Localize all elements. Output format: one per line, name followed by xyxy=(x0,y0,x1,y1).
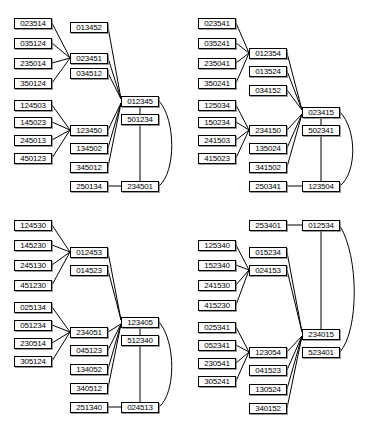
node-451230[interactable]: 451230 xyxy=(14,280,52,291)
node-523401[interactable]: 523401 xyxy=(302,347,340,358)
node-512340[interactable]: 512340 xyxy=(121,335,159,346)
node-450123[interactable]: 450123 xyxy=(14,153,52,164)
node-124503[interactable]: 124503 xyxy=(14,100,52,111)
node-125340[interactable]: 125340 xyxy=(198,240,236,251)
node-150234[interactable]: 150234 xyxy=(198,117,236,128)
node-135024[interactable]: 135024 xyxy=(249,143,287,154)
node-415230[interactable]: 415230 xyxy=(198,300,236,311)
node-123405[interactable]: 123405 xyxy=(121,317,159,328)
node-012354[interactable]: 012354 xyxy=(249,48,287,59)
panel-top-right: 023541 035241 235041 350241 125034 15023… xyxy=(184,0,367,211)
node-012534[interactable]: 012534 xyxy=(302,220,340,231)
node-234015[interactable]: 234015 xyxy=(302,329,340,340)
node-023451[interactable]: 023451 xyxy=(70,53,108,64)
node-023541[interactable]: 023541 xyxy=(198,18,236,29)
node-013452[interactable]: 013452 xyxy=(70,22,108,33)
node-241503[interactable]: 241503 xyxy=(198,135,236,146)
node-230514[interactable]: 230514 xyxy=(14,338,52,349)
node-013524[interactable]: 013524 xyxy=(249,66,287,77)
node-152340[interactable]: 152340 xyxy=(198,260,236,271)
node-235014[interactable]: 235014 xyxy=(14,58,52,69)
node-145023[interactable]: 145023 xyxy=(14,117,52,128)
node-415023[interactable]: 415023 xyxy=(198,153,236,164)
node-345012[interactable]: 345012 xyxy=(70,162,108,173)
node-012345[interactable]: 012345 xyxy=(121,96,159,107)
figure-root: 023514 035124 235014 350124 124503 14502… xyxy=(0,0,367,423)
node-245013[interactable]: 245013 xyxy=(14,135,52,146)
node-034152[interactable]: 034152 xyxy=(249,85,287,96)
node-023514[interactable]: 023514 xyxy=(14,18,52,29)
node-035241[interactable]: 035241 xyxy=(198,38,236,49)
node-051234[interactable]: 051234 xyxy=(14,320,52,331)
node-350241[interactable]: 350241 xyxy=(198,78,236,89)
node-340152[interactable]: 340152 xyxy=(249,403,287,414)
node-234150[interactable]: 234150 xyxy=(249,125,287,136)
node-241530[interactable]: 241530 xyxy=(198,280,236,291)
node-230541[interactable]: 230541 xyxy=(198,358,236,369)
node-134502[interactable]: 134502 xyxy=(70,143,108,154)
node-035124[interactable]: 035124 xyxy=(14,38,52,49)
node-245130[interactable]: 245130 xyxy=(14,260,52,271)
node-253401[interactable]: 253401 xyxy=(249,220,287,231)
node-123450[interactable]: 123450 xyxy=(70,125,108,136)
panel-bottom-left: 124530 145230 245130 451230 025134 05123… xyxy=(0,212,183,423)
node-502341[interactable]: 502341 xyxy=(302,125,340,136)
node-234501[interactable]: 234501 xyxy=(121,181,159,192)
node-501234[interactable]: 501234 xyxy=(121,114,159,125)
node-124530[interactable]: 124530 xyxy=(14,220,52,231)
node-025341[interactable]: 025341 xyxy=(198,322,236,333)
node-350124[interactable]: 350124 xyxy=(14,78,52,89)
node-125034[interactable]: 125034 xyxy=(198,100,236,111)
node-025134[interactable]: 025134 xyxy=(14,302,52,313)
node-123054[interactable]: 123054 xyxy=(249,347,287,358)
node-014523[interactable]: 014523 xyxy=(70,265,108,276)
node-045123[interactable]: 045123 xyxy=(70,345,108,356)
node-024513[interactable]: 024513 xyxy=(121,402,159,413)
node-234051[interactable]: 234051 xyxy=(70,327,108,338)
node-305124[interactable]: 305124 xyxy=(14,356,52,367)
node-023415[interactable]: 023415 xyxy=(302,107,340,118)
node-134052[interactable]: 134052 xyxy=(70,364,108,375)
panel-bottom-right: 125340 152340 241530 415230 025341 05234… xyxy=(184,212,367,423)
node-052341[interactable]: 052341 xyxy=(198,340,236,351)
panel-top-left: 023514 035124 235014 350124 124503 14502… xyxy=(0,0,183,211)
node-235041[interactable]: 235041 xyxy=(198,58,236,69)
node-305241[interactable]: 305241 xyxy=(198,376,236,387)
node-015234[interactable]: 015234 xyxy=(249,247,287,258)
node-123504[interactable]: 123504 xyxy=(302,181,340,192)
node-341502[interactable]: 341502 xyxy=(249,162,287,173)
node-250134[interactable]: 250134 xyxy=(70,181,108,192)
node-251340[interactable]: 251340 xyxy=(70,402,108,413)
node-340512[interactable]: 340512 xyxy=(70,383,108,394)
node-145230[interactable]: 145230 xyxy=(14,240,52,251)
node-041523[interactable]: 041523 xyxy=(249,365,287,376)
node-250341[interactable]: 250341 xyxy=(249,181,287,192)
node-012453[interactable]: 012453 xyxy=(70,247,108,258)
node-034512[interactable]: 034512 xyxy=(70,68,108,79)
node-024153[interactable]: 024153 xyxy=(249,265,287,276)
node-130524[interactable]: 130524 xyxy=(249,384,287,395)
